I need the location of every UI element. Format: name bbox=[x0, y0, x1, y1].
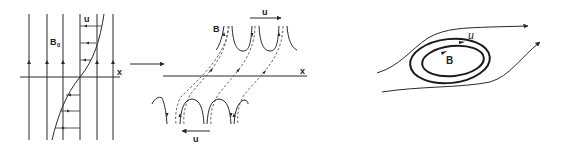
left-field-label: B bbox=[50, 37, 57, 47]
middle-field-label: B bbox=[213, 24, 220, 34]
left-velocity-label: u bbox=[84, 14, 90, 24]
right-panel-flux-loop: u B bbox=[377, 26, 540, 92]
left-panel-initial-field: u B 0 x bbox=[20, 14, 122, 140]
middle-panel-sheared-field: x u B bbox=[152, 7, 307, 144]
middle-bottom-velocity-label: u bbox=[193, 134, 199, 144]
diagram-canvas: u B 0 x x u B bbox=[0, 0, 561, 149]
middle-top-velocity-label: u bbox=[262, 7, 268, 17]
top-field-loops bbox=[216, 26, 297, 51]
middle-axis-label: x bbox=[300, 66, 305, 76]
left-field-subscript: 0 bbox=[57, 42, 61, 48]
left-axis-label: x bbox=[117, 67, 122, 77]
field-line-arrow-icons bbox=[27, 60, 115, 64]
lower-streamline-arrow-icon bbox=[382, 42, 540, 92]
right-field-label: B bbox=[446, 55, 453, 66]
outer-loop-arrow-icon bbox=[459, 41, 465, 44]
right-velocity-label: u bbox=[468, 28, 474, 42]
bottom-field-loops bbox=[152, 97, 248, 124]
